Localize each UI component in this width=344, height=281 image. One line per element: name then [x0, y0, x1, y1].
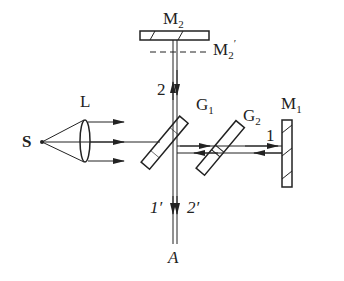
lens-label: L — [80, 92, 90, 111]
g1-label: G1 — [196, 95, 214, 116]
m2-prime-label: M2′ — [213, 37, 236, 61]
michelson-diagram: M2 M2′ S L G1 G2 — [0, 0, 344, 281]
horizontal-beams: 1 — [177, 126, 282, 153]
beam-2-out-label: 2′ — [187, 198, 200, 217]
vertical-beams — [173, 40, 177, 244]
output-label: A — [167, 248, 179, 267]
m1-label: M1 — [281, 94, 302, 115]
beam-1-out-label: 1′ — [150, 198, 163, 217]
source-and-lens: S L — [22, 92, 160, 162]
source-label: S — [22, 132, 31, 151]
splitter-g1 — [141, 116, 188, 169]
g2-label: G2 — [243, 106, 261, 127]
m2-label: M2 — [163, 9, 184, 30]
lens — [80, 120, 90, 162]
beam-1-label: 1 — [266, 126, 275, 145]
compensator-g2 — [196, 121, 244, 176]
mirror-m1: M1 — [281, 94, 302, 187]
mirror-m2: M2 — [140, 9, 209, 40]
beam-2-label: 2 — [157, 80, 166, 99]
